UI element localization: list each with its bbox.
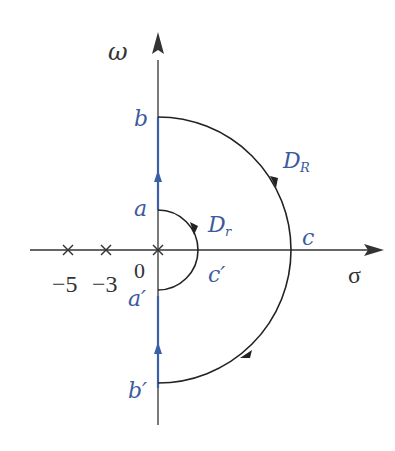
- point-label-c-prime: c′: [208, 262, 225, 287]
- point-label-c: c: [302, 225, 314, 250]
- contour-label-Dr: D r: [207, 212, 232, 239]
- origin-label: 0: [134, 258, 145, 283]
- point-label-a-prime: a′: [128, 286, 146, 311]
- up-arrow-icon-lower: [154, 342, 162, 354]
- pole-label-minus5: −5: [52, 271, 78, 297]
- svg-text:r: r: [225, 224, 232, 239]
- svg-text:R: R: [299, 160, 310, 175]
- up-arrow-icon-upper: [154, 170, 162, 182]
- nyquist-contour-diagram: ω σ 0 −5 −3 b a a′ b′ c c′ D R D r: [0, 0, 395, 451]
- svg-text:D: D: [207, 212, 226, 237]
- point-label-b: b: [134, 106, 148, 131]
- omega-label: ω: [108, 38, 128, 66]
- omega-arrow-icon: [152, 32, 164, 54]
- sigma-axis: [30, 244, 384, 256]
- pole-label-minus3: −3: [92, 271, 118, 297]
- sigma-label: σ: [348, 262, 361, 288]
- contour-label-DR: D R: [282, 148, 310, 175]
- point-label-a: a: [134, 196, 147, 221]
- point-label-b-prime: b′: [128, 378, 147, 403]
- svg-text:D: D: [282, 148, 301, 173]
